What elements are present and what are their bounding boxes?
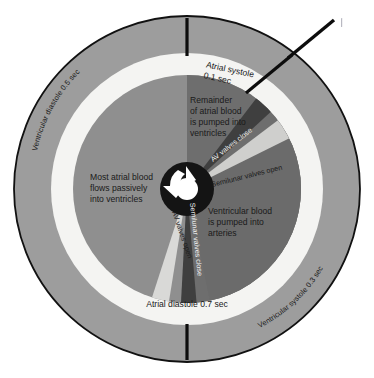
most-atrial-line-3: into ventricles bbox=[90, 194, 143, 204]
center-hub bbox=[160, 162, 214, 216]
cardiac-wheel-svg: Ventricular diastole 0.5 sec Ventricular… bbox=[0, 0, 374, 378]
remainder-line-2: of atrial blood bbox=[190, 106, 242, 116]
ventricular-blood-line-1: Ventricular blood bbox=[208, 206, 272, 216]
cardiac-cycle-diagram: Ventricular diastole 0.5 sec Ventricular… bbox=[0, 0, 374, 378]
ventricular-blood-line-2: is pumped into bbox=[208, 217, 264, 227]
remainder-line-4: ventricles bbox=[190, 128, 226, 138]
scan-artifact bbox=[341, 18, 342, 27]
remainder-line-1: Remainder bbox=[190, 95, 232, 105]
divider-upper-right-outer bbox=[288, 20, 334, 58]
most-atrial-line-2: flows passively bbox=[90, 183, 148, 193]
label-atrial-diastole: Atrial diastole 0.7 sec bbox=[146, 299, 228, 309]
ventricular-blood-line-3: arteries bbox=[208, 228, 237, 238]
most-atrial-line-1: Most atrial blood bbox=[90, 172, 153, 182]
remainder-line-3: is pumped into bbox=[190, 117, 246, 127]
